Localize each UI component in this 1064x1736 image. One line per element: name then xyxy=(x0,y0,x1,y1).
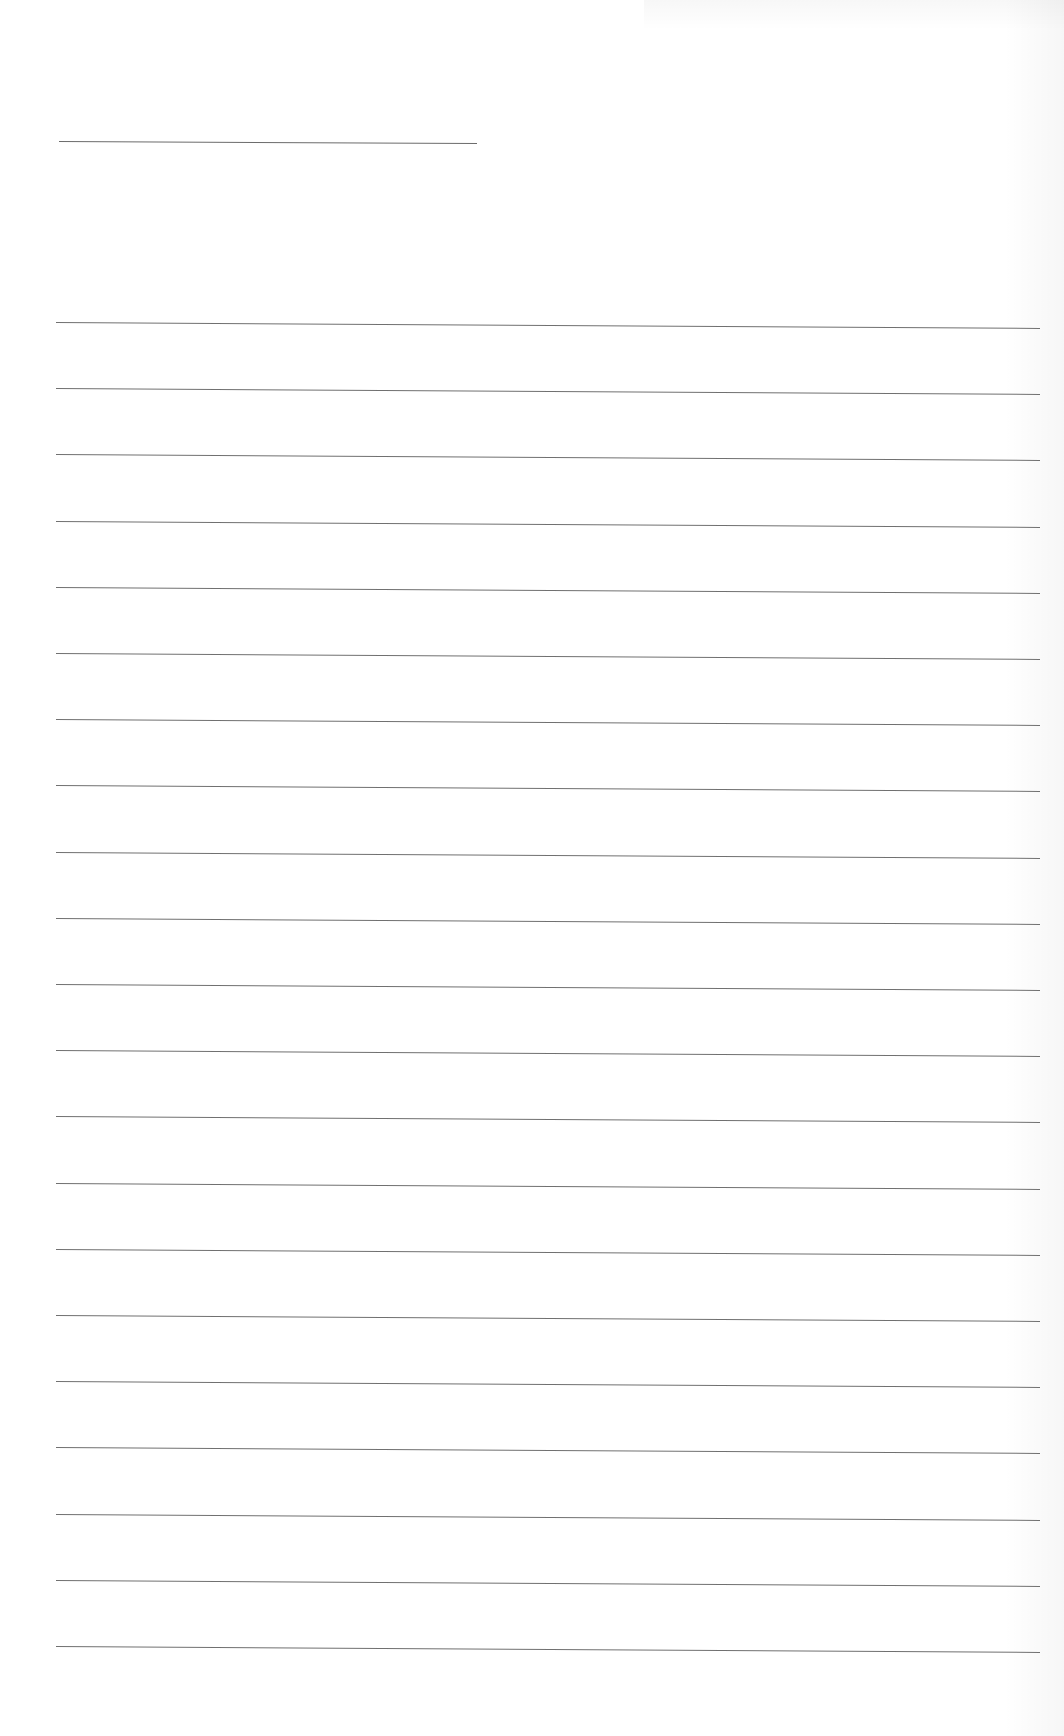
ruled-line xyxy=(56,1580,1040,1587)
ruled-line xyxy=(56,1315,1040,1322)
ruled-line xyxy=(56,521,1040,528)
page-edge-shadow xyxy=(1004,0,1064,1736)
ruled-line xyxy=(56,388,1040,395)
ruled-line xyxy=(56,1116,1040,1123)
ruled-line xyxy=(56,1514,1040,1521)
ruled-line xyxy=(56,1249,1040,1256)
ruled-line xyxy=(56,1646,1040,1653)
ruled-line xyxy=(56,918,1040,925)
name-header-line xyxy=(59,141,477,144)
ruled-line xyxy=(56,1447,1040,1454)
ruled-line xyxy=(56,454,1040,461)
ruled-line xyxy=(56,1381,1040,1388)
ruled-line xyxy=(56,653,1040,660)
ruled-line xyxy=(56,785,1040,792)
ruled-line xyxy=(56,587,1040,594)
ruled-line xyxy=(56,719,1040,726)
ruled-line xyxy=(56,984,1040,991)
ruled-line xyxy=(56,1183,1040,1190)
page-top-shadow xyxy=(644,0,1064,30)
ruled-line xyxy=(56,852,1040,859)
lined-paper-page xyxy=(0,0,1064,1736)
ruled-line xyxy=(56,1050,1040,1057)
ruled-line xyxy=(56,322,1040,329)
